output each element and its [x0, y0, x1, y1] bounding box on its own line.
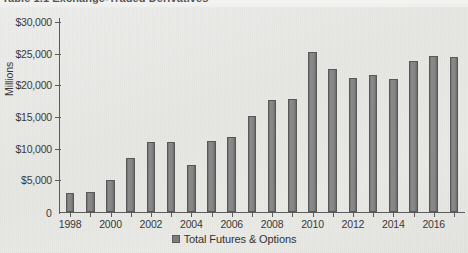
- x-axis-tick: [171, 213, 172, 217]
- bar-2010: [308, 52, 317, 212]
- x-axis-tick: [252, 213, 253, 217]
- bar-2015: [409, 61, 418, 212]
- x-axis-tick: [333, 213, 334, 217]
- x-axis-label: 2004: [180, 218, 203, 230]
- bar-2013: [369, 75, 378, 212]
- bar-1998: [66, 193, 75, 212]
- x-axis-label: 2002: [140, 218, 163, 230]
- x-axis-tick: [272, 213, 273, 217]
- x-axis-tick: [151, 213, 152, 217]
- x-axis-tick: [111, 213, 112, 217]
- x-axis-tick: [90, 213, 91, 217]
- x-axis-label: 2014: [382, 218, 405, 230]
- bar-2014: [389, 79, 398, 212]
- x-axis-tick: [393, 213, 394, 217]
- y-axis-tick: [55, 180, 61, 181]
- cut-off-heading-fade: [0, 3, 468, 7]
- plot-area: 0 $5,000$10,000$15,000$20,000$25,000$30,…: [60, 22, 464, 212]
- bar-2000: [106, 180, 115, 212]
- y-axis-tick: [55, 85, 61, 86]
- y-axis-label: $5,000: [21, 174, 52, 186]
- x-axis-tick: [212, 213, 213, 217]
- y-axis-tick: [55, 149, 61, 150]
- x-axis-label: 2012: [342, 218, 365, 230]
- bar-2004: [187, 165, 196, 212]
- bar-2001: [126, 158, 135, 212]
- chart-legend: Total Futures & Options: [0, 233, 468, 245]
- x-axis-label: 2010: [301, 218, 324, 230]
- y-axis-label: $10,000: [15, 143, 52, 155]
- bar-2012: [349, 78, 358, 212]
- y-axis-label: $20,000: [15, 79, 52, 91]
- chart-page: Table 1.1 Exchange-Traded Derivatives Mi…: [0, 0, 468, 253]
- bar-2006: [227, 137, 236, 212]
- bar-2003: [167, 142, 176, 212]
- y-axis-title: Millions: [3, 62, 15, 96]
- x-axis-tick: [353, 213, 354, 217]
- x-axis-tick: [454, 213, 455, 217]
- y-axis-tick: [55, 22, 61, 23]
- bar-2008: [268, 100, 277, 212]
- x-axis-tick: [414, 213, 415, 217]
- bar-2002: [147, 142, 156, 212]
- bar-1999: [86, 192, 95, 212]
- legend-label: Total Futures & Options: [184, 233, 297, 245]
- x-axis-tick: [313, 213, 314, 217]
- x-axis-label: 2008: [261, 218, 284, 230]
- bar-2011: [328, 69, 337, 212]
- cut-off-heading: Table 1.1 Exchange-Traded Derivatives: [0, 0, 468, 7]
- x-axis-tick: [191, 213, 192, 217]
- x-axis-label: 2016: [422, 218, 445, 230]
- bar-2016: [429, 56, 438, 212]
- y-axis-tick: [55, 117, 61, 118]
- y-axis-tick: [55, 54, 61, 55]
- y-axis-line: [59, 18, 60, 214]
- x-axis-tick: [292, 213, 293, 217]
- bar-2009: [288, 99, 297, 212]
- x-axis-tick: [373, 213, 374, 217]
- bar-2017: [450, 57, 459, 212]
- legend-swatch-icon: [172, 235, 180, 243]
- bar-2005: [207, 141, 216, 212]
- y-axis-label: $30,000: [15, 16, 52, 28]
- y-axis-label: $15,000: [15, 111, 52, 123]
- x-axis-tick: [232, 213, 233, 217]
- x-axis-label: 2000: [99, 218, 122, 230]
- x-axis-tick: [70, 213, 71, 217]
- x-axis-tick: [131, 213, 132, 217]
- x-axis: 1998200020022004200620082010201220142016: [60, 213, 466, 235]
- x-axis-label: 1998: [59, 218, 82, 230]
- y-axis-label-zero: 0: [46, 207, 52, 219]
- x-axis-label: 2006: [220, 218, 243, 230]
- bar-2007: [248, 116, 257, 212]
- y-axis-label: $25,000: [15, 48, 52, 60]
- x-axis-tick: [434, 213, 435, 217]
